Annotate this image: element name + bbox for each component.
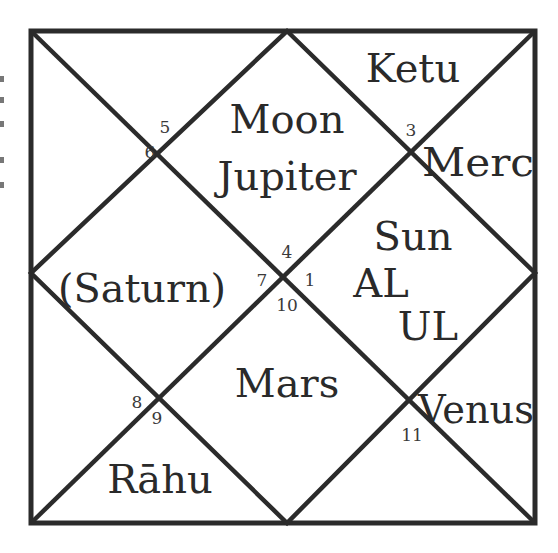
house-number-5: 5: [160, 117, 171, 137]
planet-ketu: Ketu: [366, 45, 460, 91]
planet-sun: Sun: [374, 213, 453, 259]
planet-mercury: Merc: [422, 139, 534, 185]
house-number-4: 4: [282, 242, 293, 262]
planet-jupiter: Jupiter: [213, 153, 357, 199]
house-number-10: 10: [276, 295, 298, 315]
planet-mars: Mars: [235, 360, 339, 406]
point-arudha-lagna: AL: [352, 260, 408, 306]
house-number-8: 8: [132, 392, 143, 412]
house-number-7: 7: [257, 270, 268, 290]
house-number-6: 6: [145, 142, 156, 162]
planet-moon: Moon: [230, 96, 345, 142]
house-number-9: 9: [152, 408, 163, 428]
planet-rahu: Rāhu: [107, 456, 213, 502]
house-number-3: 3: [406, 120, 417, 140]
planet-saturn: (Saturn): [58, 265, 226, 311]
planet-venus: Venus: [417, 386, 534, 432]
point-upapada-lagna: UL: [398, 303, 458, 349]
rasi-chart: 5 6 3 4 7 1 10 8 9 11 Ketu Moon Jupiter …: [0, 0, 558, 553]
house-number-1: 1: [305, 270, 316, 290]
